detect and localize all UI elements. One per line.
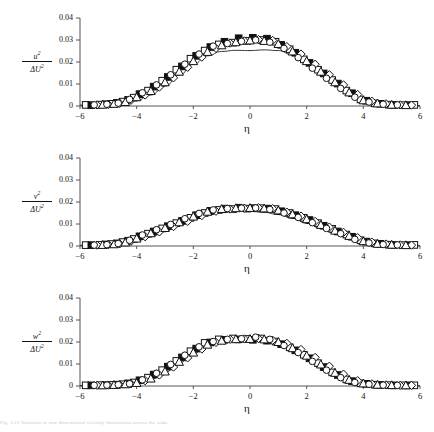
y-axis-label: v2ΔU2 [22,190,52,213]
x-axis-label: η [244,122,250,134]
data-point-circle-open [196,210,203,217]
plot-panel-w: 00.010.020.030.04−6−4−20246w2ΔU2η [0,284,434,416]
data-point-circle-open [139,232,146,239]
data-point-circle-open [238,205,245,212]
data-point-circle-open [380,382,387,389]
data-point-circle-open [281,342,288,349]
data-point-circle-open [182,215,189,222]
data-point-circle-open [366,99,373,106]
data-point-circle-open [309,219,316,226]
y-axis-label-numerator: u2 [22,50,52,62]
data-point-circle-open [126,96,133,103]
data-point-circle-open [267,336,274,343]
data-point-circle-open [337,374,344,381]
data-point-circle-open [337,85,344,92]
chart-canvas [0,284,434,416]
figure-root: 00.010.020.030.04−6−4−20246u2ΔU2η 00.010… [0,0,434,432]
data-point-circle-open [366,381,373,388]
y-axis-label-denominator: ΔU2 [22,342,52,354]
data-point-circle-open [224,40,231,47]
y-axis-label-numerator: v2 [22,190,52,202]
y-axis-label-numerator: w2 [22,330,52,342]
plot-panel-u: 00.010.020.030.04−6−4−20246u2ΔU2η [0,4,434,136]
data-point-circle-open [139,90,146,97]
chart-canvas [0,4,434,136]
data-point-circle-open [295,214,302,221]
data-point-circle-open [167,71,174,78]
data-point-circle-open [238,38,245,45]
y-axis-label-denominator: ΔU2 [22,202,52,214]
data-point-circle-open [115,100,122,107]
data-point-circle-open [394,382,401,389]
data-point-circle-open [210,338,217,345]
data-point-circle-open [210,207,217,214]
plot-panel-v: 00.010.020.030.04−6−4−20246v2ΔU2η [0,144,434,276]
data-point-circle-open [167,221,174,228]
y-axis-label: u2ΔU2 [22,50,52,73]
data-point-circle-open [224,205,231,212]
data-point-circle-open [91,382,98,389]
figure-caption: Fig. 5.21 Variation of non-dimensional v… [0,420,434,432]
data-point-circle-open [309,65,316,72]
data-point-circle-open [91,242,98,249]
data-point-circle-open [104,101,111,108]
data-point-circle-open [104,382,111,389]
data-point-circle-open [153,82,160,89]
data-point-circle-open [126,237,133,244]
data-point-circle-open [115,240,122,247]
x-axis-label: η [244,262,250,274]
data-point-circle-open [309,358,316,365]
data-point-circle-open [91,102,98,109]
data-point-circle-open [394,242,401,249]
data-point-circle-open [139,377,146,384]
data-point-circle-open [267,206,274,213]
data-point-circle-open [252,334,259,341]
data-point-circle-open [210,43,217,50]
y-axis-label-denominator: ΔU2 [22,62,52,74]
chart-canvas [0,144,434,276]
data-point-circle-open [115,381,122,388]
data-point-circle-open [295,54,302,61]
data-point-circle-open [281,210,288,217]
data-point-circle-open [126,381,133,388]
data-point-circle-open [238,335,245,342]
data-point-circle-open [267,39,274,46]
data-point-circle-open [182,352,189,359]
data-point-circle-open [224,336,231,343]
data-point-circle-open [352,94,359,101]
data-point-circle-open [337,230,344,237]
data-point-circle-open [153,226,160,233]
data-point-circle-open [295,349,302,356]
data-point-circle-open [104,241,111,248]
data-point-circle-open [380,241,387,248]
data-point-circle-open [153,370,160,377]
data-point-circle-open [252,205,259,212]
data-point-circle-open [323,75,330,82]
y-axis-label: w2ΔU2 [22,330,52,353]
x-axis-label: η [244,402,250,414]
data-point-circle-open [196,51,203,58]
data-point-circle-open [182,61,189,68]
data-point-circle-open [323,225,330,232]
data-point-circle-open [252,37,259,44]
data-point-circle-open [281,45,288,52]
data-point-circle-open [167,361,174,368]
data-point-circle-open [380,101,387,108]
data-point-circle-open [394,102,401,109]
data-point-circle-open [352,236,359,243]
data-point-circle-open [323,367,330,374]
data-point-circle-open [196,344,203,351]
data-point-circle-open [366,240,373,247]
data-point-circle-open [352,379,359,386]
